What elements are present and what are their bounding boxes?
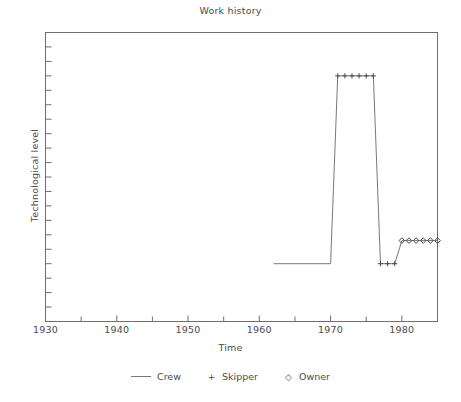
legend-diamond-icon: ◇ <box>284 372 293 382</box>
x-tick-label: 1950 <box>168 324 208 335</box>
x-tick-label: 1960 <box>239 324 279 335</box>
x-tick-label: 1970 <box>311 324 351 335</box>
x-tick-label: 1930 <box>26 324 66 335</box>
legend-label-owner: Owner <box>299 371 330 382</box>
legend-plus-icon: + <box>207 372 216 382</box>
series-crew <box>274 76 438 264</box>
x-axis-label: Time <box>0 342 461 353</box>
legend-line-icon <box>131 376 151 377</box>
x-tick-label: 1940 <box>97 324 137 335</box>
plot-frame <box>46 33 438 322</box>
x-tick-label: 1980 <box>382 324 422 335</box>
legend-label-skipper: Skipper <box>222 371 258 382</box>
chart-figure: Work history 193019401950196019701980 Ti… <box>0 0 461 402</box>
chart-legend: Crew + Skipper ◇ Owner <box>0 371 461 382</box>
y-axis-label: Technological level <box>29 96 40 256</box>
y-axis-ticks <box>46 47 52 307</box>
legend-label-crew: Crew <box>157 371 181 382</box>
legend-entry-skipper[interactable]: + Skipper <box>207 371 258 382</box>
legend-entry-owner[interactable]: ◇ Owner <box>284 371 330 382</box>
x-axis-ticks <box>46 316 438 322</box>
legend-entry-crew[interactable]: Crew <box>131 371 181 382</box>
series-skipper <box>335 73 397 266</box>
